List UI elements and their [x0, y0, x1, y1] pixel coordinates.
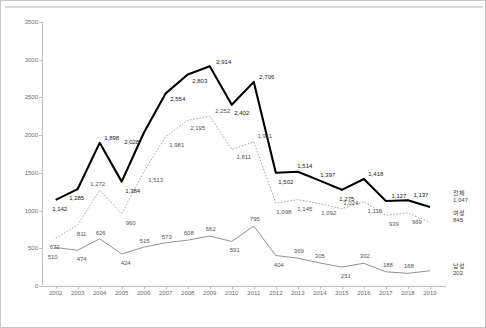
- data-label-total: 1,137: [413, 192, 428, 198]
- y-tick-label: 0: [8, 283, 38, 289]
- x-tick-label: 2019: [418, 290, 442, 297]
- data-label-female: 1,145: [297, 206, 312, 212]
- x-tick-label: 2003: [66, 290, 90, 297]
- y-tick-mark: [39, 60, 42, 61]
- data-label-male: 608: [184, 230, 194, 236]
- data-label-female: 1,911: [258, 133, 273, 139]
- data-label-female: 1,981: [169, 142, 184, 148]
- data-label-male: 510: [48, 254, 58, 260]
- data-label-total: 2,914: [216, 59, 231, 65]
- data-label-male: 474: [77, 256, 87, 262]
- legend-item-total: 전체 1,047: [453, 190, 468, 204]
- x-tick-mark: [210, 286, 211, 289]
- data-label-male: 369: [294, 248, 304, 254]
- legend-label-female: 여성: [453, 210, 465, 217]
- x-tick-label: 2016: [352, 290, 376, 297]
- x-tick-label: 2009: [198, 290, 222, 297]
- line-series-male: [56, 226, 430, 273]
- data-label-male: 404: [274, 262, 284, 268]
- data-label-total: 1,285: [69, 195, 84, 201]
- y-tick-mark: [39, 286, 42, 287]
- x-tick-label: 2018: [396, 290, 420, 297]
- x-tick-mark: [56, 286, 57, 289]
- x-tick-label: 2005: [110, 290, 134, 297]
- x-tick-label: 2015: [330, 290, 354, 297]
- data-label-male: 626: [96, 230, 106, 236]
- x-tick-label: 2011: [242, 290, 266, 297]
- x-tick-mark: [78, 286, 79, 289]
- data-label-female: 1,272: [90, 181, 105, 187]
- x-tick-mark: [430, 286, 431, 289]
- data-label-total: 2,706: [259, 74, 274, 80]
- data-label-male: 424: [121, 260, 131, 266]
- data-label-female: 1,513: [148, 177, 163, 183]
- data-label-total: 1,514: [297, 163, 312, 169]
- legend-value-total: 1,047: [453, 197, 468, 204]
- legend-value-male: 202: [453, 270, 465, 277]
- data-label-total: 2,028: [124, 139, 139, 145]
- y-tick-mark: [39, 211, 42, 212]
- data-label-male: 591: [230, 247, 240, 253]
- x-tick-label: 2006: [132, 290, 156, 297]
- data-label-male: 795: [250, 216, 260, 222]
- data-label-female: 969: [412, 219, 422, 225]
- y-tick-mark: [39, 97, 42, 98]
- data-label-male: 188: [383, 262, 393, 268]
- data-label-female: 1,811: [236, 154, 251, 160]
- legend-value-female: 845: [453, 217, 465, 224]
- data-label-total: 2,803: [192, 78, 207, 84]
- x-tick-label: 2002: [44, 290, 68, 297]
- y-tick-mark: [39, 248, 42, 249]
- x-tick-mark: [364, 286, 365, 289]
- data-label-female: 2,195: [190, 125, 205, 131]
- data-label-female: 1,092: [321, 210, 336, 216]
- x-tick-mark: [188, 286, 189, 289]
- x-tick-mark: [320, 286, 321, 289]
- y-tick-label: 2500: [8, 94, 38, 100]
- data-label-total: 1,384: [125, 188, 140, 194]
- x-tick-label: 2017: [374, 290, 398, 297]
- x-tick-mark: [342, 286, 343, 289]
- data-label-male: 302: [360, 253, 370, 259]
- x-tick-label: 2012: [264, 290, 288, 297]
- x-tick-mark: [232, 286, 233, 289]
- data-label-female: 939: [389, 221, 399, 227]
- x-tick-mark: [276, 286, 277, 289]
- y-tick-label: 500: [8, 245, 38, 251]
- data-label-total: 1,142: [52, 206, 67, 212]
- x-tick-label: 2014: [308, 290, 332, 297]
- legend-label-total: 전체: [453, 190, 468, 197]
- header-divider: [5, 6, 483, 8]
- x-tick-label: 2010: [220, 290, 244, 297]
- y-tick-label: 3500: [8, 19, 38, 25]
- data-label-female: 632: [50, 244, 60, 250]
- data-label-female: 1,098: [276, 209, 291, 215]
- data-label-male: 168: [404, 263, 414, 269]
- y-tick-mark: [39, 22, 42, 23]
- data-label-total: 1,127: [391, 193, 406, 199]
- y-tick-label: 1500: [8, 170, 38, 176]
- x-tick-mark: [122, 286, 123, 289]
- data-label-female: 2,252: [215, 108, 230, 114]
- data-label-female: 1,024: [343, 200, 358, 206]
- chart-container: 0500100015002000250030003500 20022003200…: [0, 0, 486, 328]
- legend-item-female: 여성 845: [453, 210, 465, 224]
- data-label-female: 811: [77, 231, 87, 237]
- y-tick-mark: [39, 135, 42, 136]
- y-tick-mark: [39, 173, 42, 174]
- x-tick-label: 2007: [154, 290, 178, 297]
- data-label-female: 1,118: [368, 208, 383, 214]
- legend-label-male: 남성: [453, 263, 465, 270]
- x-tick-mark: [144, 286, 145, 289]
- data-label-total: 1,418: [368, 171, 383, 177]
- data-label-male: 662: [206, 226, 216, 232]
- y-tick-label: 1000: [8, 208, 38, 214]
- x-tick-label: 2008: [176, 290, 200, 297]
- x-tick-mark: [254, 286, 255, 289]
- x-tick-mark: [386, 286, 387, 289]
- data-label-total: 1,397: [320, 172, 335, 178]
- data-label-male: 305: [315, 253, 325, 259]
- x-tick-mark: [408, 286, 409, 289]
- x-tick-mark: [100, 286, 101, 289]
- data-label-female: 960: [126, 220, 136, 226]
